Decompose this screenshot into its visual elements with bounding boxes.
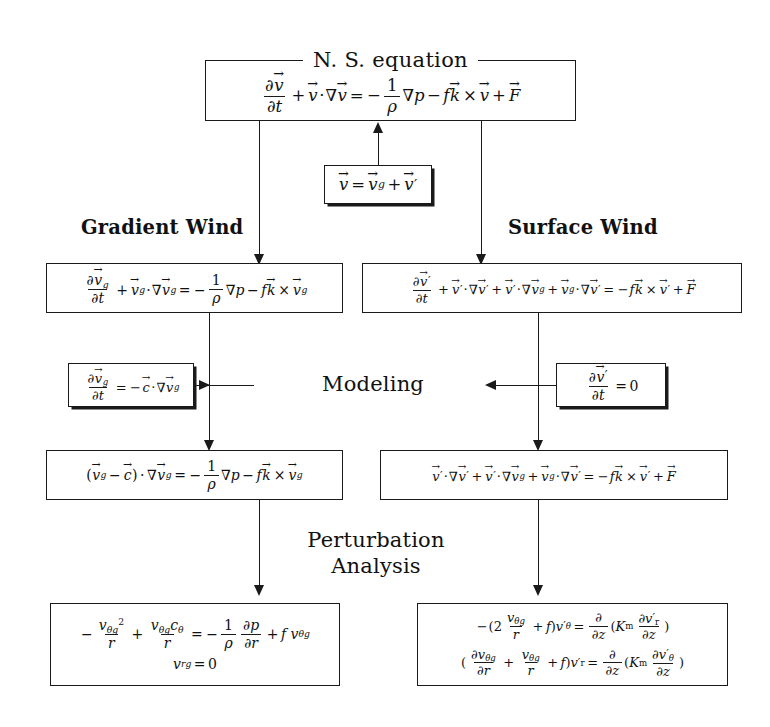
perturbation-heading-line-1: Perturbation xyxy=(278,528,474,554)
node-decomposition: v=vg+v′ xyxy=(324,165,432,204)
ns-equation-legend: N. S. equation xyxy=(303,48,478,72)
connector-gradient-to-final xyxy=(259,500,260,591)
ns-equation-formula: ∂v∂t +v·∇v =−1ρ∇p −fk×v +F xyxy=(260,77,521,115)
ns-equation-frame: N. S. equation ∂v∂t +v·∇v =−1ρ∇p −fk×v +… xyxy=(205,48,576,121)
connector-ns-to-surface xyxy=(481,121,482,260)
heading-gradient-wind: Gradient Wind xyxy=(81,216,243,239)
heading-modeling: Modeling xyxy=(298,372,448,396)
node-surface-wind-final: −(2 vθgr +f)v′θ = ∂∂z (Km ∂v′r∂z ) ( ∂vθ… xyxy=(417,603,728,686)
connector-ns-to-gradient xyxy=(259,121,260,260)
modeling-right-formula: ∂v′∂t =0 xyxy=(584,369,639,403)
node-gradient-wind-reduced: (vg−c) ·∇vg =−1ρ∇p −fk×vg xyxy=(46,450,343,500)
arrow-gradient-to-final xyxy=(254,585,264,596)
surface-wind-final-line-2: ( ∂vθg∂r + vθgr +f)v′r = ∂∂z (Km ∂v′θ∂z … xyxy=(461,647,684,678)
surface-wind-reduced-formula: v′·∇v′ +v′·∇vg +vg·∇v′ =−fk×v′ +F xyxy=(432,470,677,483)
modeling-left-formula: ∂vg∂t =−c· ∇vg xyxy=(83,372,180,402)
connector-modeling-right-arrow xyxy=(490,385,556,386)
node-gradient-wind-final: − vθg2r + vθgcθr =− 1ρ ∂p∂r +f vθg vrg=0 xyxy=(50,603,340,686)
gradient-wind-formula: ∂vg∂t +vg·∇vg =−1ρ∇p −fk×vg xyxy=(82,273,308,305)
node-modeling-right-assumption: ∂v′∂t =0 xyxy=(556,363,666,407)
connector-surface-to-final xyxy=(538,500,539,591)
surface-wind-final-line-1: −(2 vθgr +f)v′θ = ∂∂z (Km ∂v′r∂z ) xyxy=(476,611,670,642)
arrow-modeling-left xyxy=(199,380,210,390)
arrow-modeling-right xyxy=(485,380,496,390)
connector-decomposition-to-ns xyxy=(378,133,379,165)
heading-surface-wind: Surface Wind xyxy=(508,216,658,239)
surface-wind-formula: ∂v′∂t +v′·∇v′ +v′·∇vg +vg·∇v′ =−fk×v′ +F xyxy=(408,274,696,305)
decomposition-formula: v=vg+v′ xyxy=(339,177,418,194)
node-ns-equation: N. S. equation ∂v∂t +v·∇v =−1ρ∇p −fk×v +… xyxy=(205,48,576,121)
node-gradient-wind-equation: ∂vg∂t +vg·∇vg =−1ρ∇p −fk×vg xyxy=(46,263,343,313)
arrow-decomposition-to-ns xyxy=(373,122,383,133)
heading-perturbation-analysis: Perturbation Analysis xyxy=(278,528,474,579)
arrow-surface-to-final xyxy=(533,585,543,596)
node-modeling-left-assumption: ∂vg∂t =−c· ∇vg xyxy=(68,363,194,407)
gradient-wind-reduced-formula: (vg−c) ·∇vg =−1ρ∇p −fk×vg xyxy=(86,459,303,491)
node-surface-wind-reduced: v′·∇v′ +v′·∇vg +vg·∇v′ =−fk×v′ +F xyxy=(380,450,728,500)
perturbation-heading-line-2: Analysis xyxy=(278,554,474,580)
node-surface-wind-equation: ∂v′∂t +v′·∇v′ +v′·∇vg +vg·∇v′ =−fk×v′ +F xyxy=(362,263,742,313)
diagram-canvas: N. S. equation ∂v∂t +v·∇v =−1ρ∇p −fk×v +… xyxy=(0,0,770,727)
gradient-wind-final-line-2: vrg=0 xyxy=(173,657,217,671)
gradient-wind-final-line-1: − vθg2r + vθgcθr =− 1ρ ∂p∂r +f vθg xyxy=(80,618,310,650)
connector-surface-through-modeling xyxy=(538,313,539,446)
